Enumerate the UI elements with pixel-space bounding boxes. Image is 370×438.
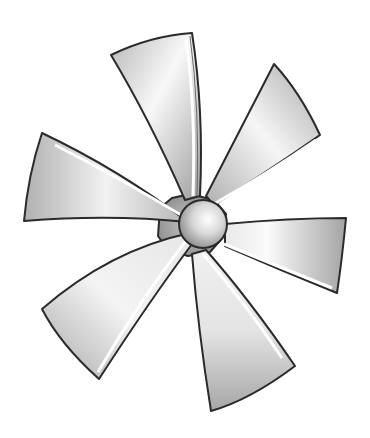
propeller-illustration: six-bladed propeller fan illustration [0,0,370,438]
blade-right [224,218,346,293]
blade-bottom-left [42,233,195,379]
blade-top-right [206,64,320,205]
blade-top [111,33,201,200]
blade-bottom [192,250,295,411]
hub-dome [179,200,227,248]
propeller-graphic [0,0,370,438]
